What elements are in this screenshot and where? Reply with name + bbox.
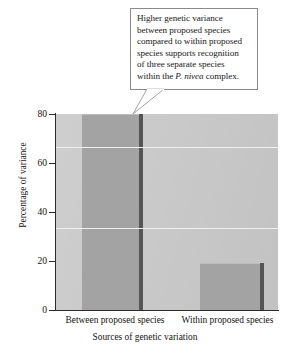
callout-text: Higher genetic variance between proposed… bbox=[137, 13, 252, 83]
y-axis-title: Percentage of variance bbox=[18, 115, 28, 255]
callout-line-2: between proposed species bbox=[137, 25, 230, 35]
y-tick-mark bbox=[49, 114, 55, 115]
bar-right-shadow bbox=[260, 263, 264, 310]
callout-line-1: Higher genetic variance bbox=[137, 13, 223, 23]
y-tick-20: 20 bbox=[0, 261, 47, 262]
y-tick-label: 0 bbox=[1, 305, 47, 315]
callout-line-6-suffix: complex. bbox=[204, 71, 239, 81]
y-axis-line bbox=[55, 113, 56, 311]
y-tick-mark bbox=[49, 310, 55, 311]
bar-top-highlight bbox=[200, 263, 264, 264]
y-tick-label: 20 bbox=[1, 256, 47, 266]
callout-pointer-icon bbox=[127, 89, 165, 115]
bar-between-proposed-species bbox=[82, 114, 143, 310]
callout-line-6-prefix: within the bbox=[137, 71, 175, 81]
x-tick-label-between-proposed-species: Between proposed species bbox=[50, 315, 180, 325]
y-tick-0: 0 bbox=[0, 310, 47, 311]
callout-line-4: species supports recognition bbox=[137, 48, 239, 58]
bar-right-shadow bbox=[139, 114, 143, 310]
bar-within-proposed-species bbox=[200, 263, 264, 310]
callout-box: Higher genetic variance between proposed… bbox=[130, 8, 258, 90]
gridline-upper bbox=[56, 147, 278, 148]
callout-line-3: compared to within proposed bbox=[137, 36, 242, 46]
y-tick-mark bbox=[49, 163, 55, 164]
gridline-lower bbox=[56, 228, 278, 229]
x-axis-line bbox=[55, 310, 279, 311]
y-tick-mark bbox=[49, 261, 55, 262]
callout-line-5: of three separate species bbox=[137, 59, 224, 69]
x-tick-label-within-proposed-species: Within proposed species bbox=[165, 315, 290, 325]
chart-plot-area bbox=[56, 114, 278, 310]
species-name-italic: P. nivea bbox=[175, 71, 203, 81]
y-tick-mark bbox=[49, 212, 55, 213]
x-axis-title: Sources of genetic variation bbox=[0, 332, 290, 342]
bar-top-highlight bbox=[82, 114, 143, 115]
